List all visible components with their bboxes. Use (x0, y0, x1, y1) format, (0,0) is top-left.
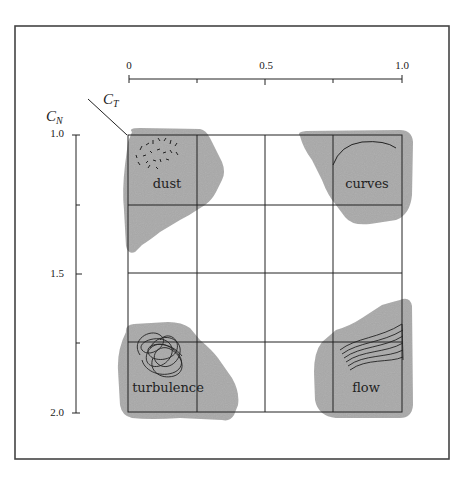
y-tick-2-0: 2.0 (50, 406, 64, 418)
turbulence-region (118, 322, 238, 420)
x-tick-1-0: 1.0 (395, 59, 409, 71)
dust-label: dust (153, 176, 182, 191)
curves-label: curves (345, 176, 389, 191)
turbulence-label: turbulence (132, 380, 204, 395)
x-axis (129, 75, 402, 85)
flow-label: flow (352, 380, 380, 395)
x-tick-0-5: 0.5 (259, 59, 273, 71)
y-axis-label: CN (46, 108, 64, 126)
y-tick-1-0: 1.0 (50, 127, 64, 139)
x-axis-label: CT (103, 91, 120, 109)
y-axis (72, 135, 82, 413)
x-tick-0: 0 (126, 59, 132, 71)
y-tick-1-5: 1.5 (50, 267, 64, 279)
diagram-canvas: 0 0.5 1.0 1.0 1.5 2.0 CT CN (0, 0, 472, 485)
